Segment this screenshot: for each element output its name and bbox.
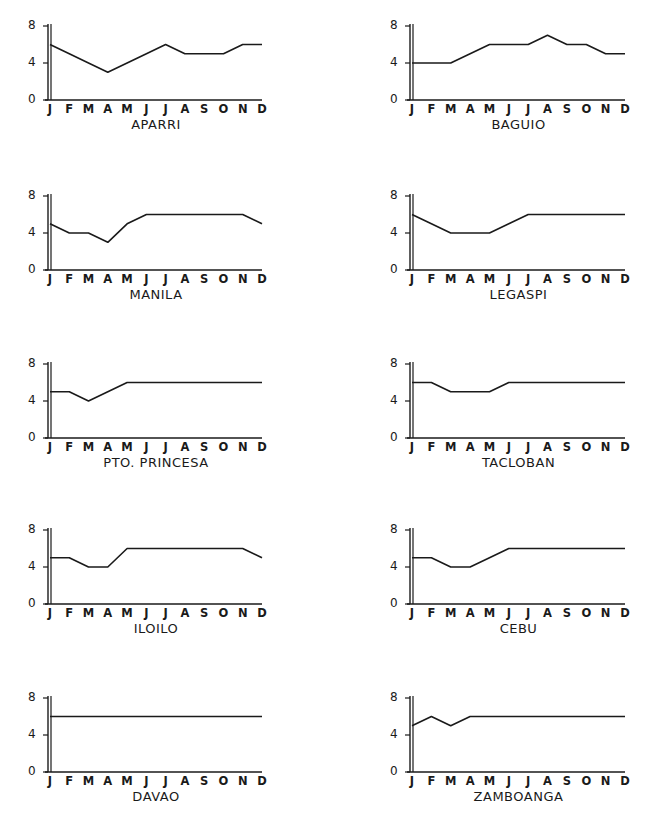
y-tick-label: 8 [390,690,398,704]
month-label: O [581,774,591,788]
month-label: A [543,774,552,788]
data-line [412,717,625,726]
month-label: M [445,774,456,788]
month-label: M [484,774,495,788]
y-tick-label: 4 [390,727,398,741]
month-label: A [466,774,475,788]
month-label: D [620,774,630,788]
y-tick-label: 0 [390,764,398,778]
line-chart [0,0,649,821]
month-label: S [563,774,571,788]
month-label: F [427,774,435,788]
month-label: N [601,774,611,788]
month-label: J [507,774,511,788]
station-title: ZAMBOANGA [474,789,564,804]
month-label: J [526,774,530,788]
chart-panel-zamboanga: 048JFMAMJJASONDZAMBOANGA [0,0,300,160]
month-label: J [410,774,414,788]
